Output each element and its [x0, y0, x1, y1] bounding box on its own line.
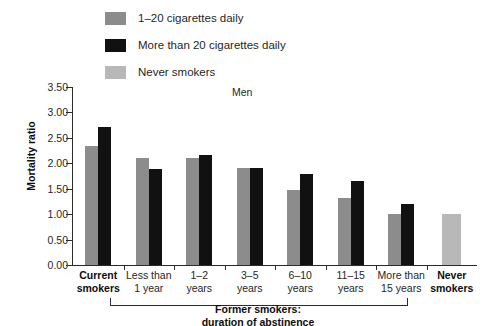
y-tick-label: 1.50 — [48, 183, 68, 195]
y-tick-label: 0.50 — [48, 234, 68, 246]
legend-item-never: Never smokers — [105, 62, 286, 82]
x-tick-label-line: Never — [427, 269, 478, 282]
x-tick-label-line: 11–15 — [326, 269, 377, 282]
x-tick-label-line: years — [225, 282, 276, 295]
legend-swatch-never — [105, 66, 126, 79]
bar-group-bars — [427, 87, 478, 265]
bar — [199, 155, 212, 265]
former-smokers-caption: Former smokers: duration of abstinence — [110, 303, 406, 326]
mortality-ratio-bar-chart: 1–20 cigarettes daily More than 20 cigar… — [0, 0, 487, 326]
y-axis-tick-labels: 0.000.501.001.502.002.503.003.50 — [26, 80, 68, 272]
bar-group — [73, 87, 124, 265]
bar-group — [174, 87, 225, 265]
legend-label-low: 1–20 cigarettes daily — [138, 12, 243, 25]
bar — [98, 127, 111, 265]
bar-group-bars — [124, 87, 175, 265]
legend-swatch-high — [105, 39, 126, 52]
legend-item-low: 1–20 cigarettes daily — [105, 8, 286, 28]
bar — [338, 198, 351, 265]
y-tick-label: 2.50 — [48, 132, 68, 144]
x-tick-label-line: years — [275, 282, 326, 295]
x-axis-labels: CurrentsmokersLess than1 year1–2years3–5… — [73, 269, 477, 299]
legend-label-never: Never smokers — [138, 66, 215, 79]
bar — [300, 174, 313, 265]
bar — [442, 214, 461, 265]
x-tick-label-line: smokers — [427, 282, 478, 295]
bar — [85, 146, 98, 266]
bar — [401, 204, 414, 265]
bar-group — [376, 87, 427, 265]
x-tick-label: Neversmokers — [427, 269, 478, 294]
legend-swatch-low — [105, 12, 126, 25]
y-tick-label: 2.00 — [48, 157, 68, 169]
x-tick-label: 3–5years — [225, 269, 276, 294]
x-tick-label-line: 1 year — [124, 282, 175, 295]
legend-label-high: More than 20 cigarettes daily — [138, 39, 286, 52]
bar-group — [225, 87, 276, 265]
y-tick-label: 0.00 — [48, 259, 68, 271]
x-tick-label-line: Current — [73, 269, 124, 282]
bar — [287, 190, 300, 265]
x-tick-label-line: Less than — [124, 269, 175, 282]
bar — [250, 168, 263, 265]
bar — [388, 214, 401, 265]
x-tick-label: 6–10years — [275, 269, 326, 294]
x-tick-label-line: More than — [376, 269, 427, 282]
x-tick-label-line: smokers — [73, 282, 124, 295]
bar — [237, 168, 250, 265]
bar-group-bars — [326, 87, 377, 265]
bar-group — [427, 87, 478, 265]
x-tick-label: More than15 years — [376, 269, 427, 294]
x-tick-label: 1–2years — [174, 269, 225, 294]
bar-group-bars — [275, 87, 326, 265]
bar-group — [124, 87, 175, 265]
bar-group — [275, 87, 326, 265]
bar — [149, 169, 162, 265]
y-tick-label: 3.50 — [48, 81, 68, 93]
chart-legend: 1–20 cigarettes daily More than 20 cigar… — [105, 8, 286, 89]
x-tick-label-line: years — [326, 282, 377, 295]
bar-group-bars — [174, 87, 225, 265]
x-tick-label: Less than1 year — [124, 269, 175, 294]
bracket-caption-line1: Former smokers: — [110, 303, 406, 316]
bar-group — [326, 87, 377, 265]
bar — [186, 158, 199, 265]
x-tick-label-line: years — [174, 282, 225, 295]
bar — [351, 181, 364, 265]
x-tick-label: Currentsmokers — [73, 269, 124, 294]
plot-area — [73, 87, 477, 265]
x-tick-label: 11–15years — [326, 269, 377, 294]
bracket-caption-line2: duration of abstinence — [110, 316, 406, 326]
y-tick-label: 3.00 — [48, 106, 68, 118]
bar-group-bars — [225, 87, 276, 265]
bar — [136, 158, 149, 265]
y-tick-label: 1.00 — [48, 208, 68, 220]
bar-group-bars — [376, 87, 427, 265]
x-tick-label-line: 15 years — [376, 282, 427, 295]
x-tick-label-line: 1–2 — [174, 269, 225, 282]
bar-group-bars — [73, 87, 124, 265]
legend-item-high: More than 20 cigarettes daily — [105, 35, 286, 55]
x-tick-label-line: 6–10 — [275, 269, 326, 282]
x-tick-label-line: 3–5 — [225, 269, 276, 282]
